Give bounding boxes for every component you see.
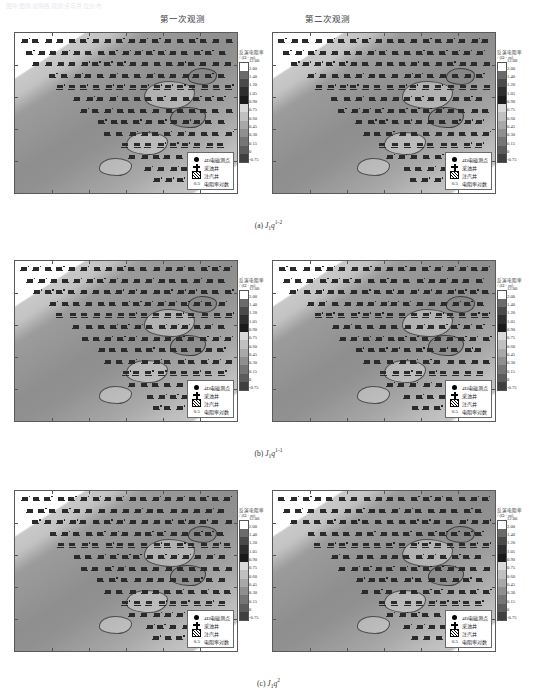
survey-point xyxy=(212,531,213,532)
survey-point xyxy=(478,496,479,497)
station-label-tick xyxy=(141,386,148,387)
survey-point xyxy=(147,38,148,39)
survey-point xyxy=(393,542,394,543)
station-label-tick xyxy=(470,593,477,594)
station-label-tick xyxy=(304,293,311,294)
station-label-tick xyxy=(283,512,290,513)
station-label-tick xyxy=(307,305,314,306)
survey-point xyxy=(111,61,112,62)
station-label-tick xyxy=(380,535,387,536)
axis-tick xyxy=(15,129,18,130)
station-label-tick xyxy=(423,570,430,571)
station-label-tick xyxy=(121,351,128,352)
colorbar-segment xyxy=(240,562,248,570)
station-label-tick xyxy=(474,558,481,559)
survey-point xyxy=(184,405,185,406)
station-label-tick xyxy=(62,305,69,306)
station-label-tick xyxy=(354,282,361,283)
station-label-tick xyxy=(315,317,322,318)
axis-tick xyxy=(273,357,276,358)
station-label-tick xyxy=(165,270,172,271)
station-label-tick xyxy=(181,535,188,536)
station-label-tick xyxy=(350,89,357,90)
axis-tick xyxy=(458,418,459,421)
station-label-tick xyxy=(45,270,52,271)
station-label-tick xyxy=(206,558,213,559)
survey-point xyxy=(423,394,424,395)
station-label-tick xyxy=(327,42,334,43)
station-label-tick xyxy=(351,523,358,524)
station-label-tick xyxy=(446,523,453,524)
survey-point xyxy=(140,554,141,555)
station-label-tick xyxy=(116,523,123,524)
survey-point xyxy=(154,624,155,625)
station-label-tick xyxy=(435,386,442,387)
axis-tick xyxy=(126,33,127,36)
station-label-tick xyxy=(58,500,65,501)
survey-point xyxy=(233,131,234,132)
axis-tick xyxy=(234,555,237,556)
station-label-tick xyxy=(391,558,398,559)
colorbar-tick-label: -0.75 xyxy=(249,158,259,166)
station-label-tick xyxy=(50,282,57,283)
station-label-tick xyxy=(50,535,57,536)
station-label-tick xyxy=(200,570,207,571)
station-label-tick xyxy=(302,65,309,66)
station-label-tick xyxy=(351,547,358,548)
survey-point xyxy=(471,531,472,532)
station-label-tick xyxy=(170,375,177,376)
station-label-tick xyxy=(169,77,176,78)
plus-cross-icon xyxy=(193,622,200,629)
survey-point xyxy=(99,61,100,62)
station-label-tick xyxy=(343,558,350,559)
station-label-tick xyxy=(152,639,159,640)
station-label-tick xyxy=(177,135,184,136)
station-label-tick xyxy=(82,340,89,341)
survey-point xyxy=(388,301,389,302)
station-label-tick xyxy=(33,500,40,501)
survey-point xyxy=(393,131,394,132)
survey-point xyxy=(382,108,383,109)
station-label-tick xyxy=(141,547,148,548)
station-label-tick xyxy=(157,305,164,306)
station-label-tick xyxy=(152,135,159,136)
axis-tick xyxy=(15,97,18,98)
survey-point xyxy=(64,84,65,85)
station-label-tick xyxy=(482,317,489,318)
station-label-tick xyxy=(350,65,357,66)
survey-point xyxy=(443,312,444,313)
station-label-tick xyxy=(452,305,459,306)
station-label-tick xyxy=(128,616,135,617)
colorbar-labels: 12.002.001.401.201.050.900.750.600.450.3… xyxy=(507,287,517,395)
colorbar-segment xyxy=(240,324,248,332)
station-label-tick xyxy=(205,100,212,101)
axis-tick xyxy=(234,161,237,162)
station-label-tick xyxy=(164,89,171,90)
survey-point xyxy=(88,266,89,267)
survey-point xyxy=(359,108,360,109)
station-label-tick xyxy=(416,305,423,306)
station-label-tick xyxy=(344,77,351,78)
survey-point xyxy=(51,496,52,497)
row-caption-b-sup: 1-1 xyxy=(275,447,282,453)
station-label-tick xyxy=(391,581,398,582)
station-label-tick xyxy=(206,147,213,148)
axis-tick xyxy=(200,648,201,651)
survey-point xyxy=(358,312,359,313)
station-label-tick xyxy=(387,42,394,43)
station-label-tick xyxy=(465,351,472,352)
station-label-tick xyxy=(331,558,338,559)
survey-point xyxy=(232,84,233,85)
legend-symbol-contour-value: 0.5 xyxy=(191,181,203,186)
station-label-tick xyxy=(204,328,211,329)
station-label-tick xyxy=(362,65,369,66)
station-label-tick xyxy=(343,282,350,283)
colorbar-gradient xyxy=(497,62,507,164)
station-label-tick xyxy=(380,100,387,101)
station-label-tick xyxy=(92,547,99,548)
survey-point xyxy=(77,519,78,520)
axis-tick xyxy=(384,261,385,264)
axis-tick xyxy=(273,325,276,326)
station-label-tick xyxy=(141,135,148,136)
station-label-tick xyxy=(471,42,478,43)
